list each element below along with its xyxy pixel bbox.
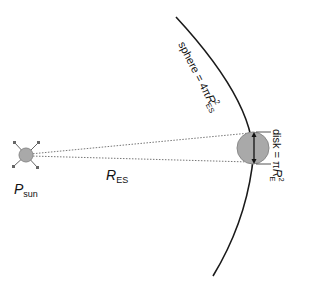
earth-disk <box>237 132 271 164</box>
sun-disc <box>19 148 33 162</box>
lower-dotted-ray <box>30 156 250 162</box>
upper-dotted-ray <box>30 133 250 154</box>
sphere-area-label: sphere = 4πR2ES <box>174 38 225 115</box>
sun-power-label: Psun <box>14 181 38 199</box>
sun-earth-irradiance-diagram: Psun RES sphere = 4πR2ES disk = πR2E <box>0 0 310 287</box>
sun-icon <box>12 141 40 169</box>
dotted-rays <box>30 133 250 162</box>
disk-area-label: disk = πR2E <box>268 129 286 182</box>
distance-label: RES <box>106 167 128 185</box>
